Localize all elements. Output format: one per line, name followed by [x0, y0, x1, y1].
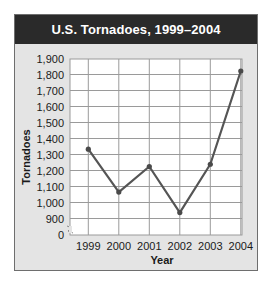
data-point [116, 190, 121, 195]
y-tick-label: 1,200 [36, 165, 64, 177]
axis-break-gap [69, 226, 72, 233]
y-tick-label: 1,000 [36, 197, 64, 209]
x-tick-label: 2001 [137, 240, 161, 252]
y-tick-label: 1,900 [36, 53, 64, 65]
x-axis-title: Year [150, 254, 174, 266]
x-tick-label: 2004 [229, 240, 253, 252]
y-tick-label: 1,500 [36, 117, 64, 129]
line-chart: 09001,0001,1001,2001,3001,4001,5001,6001… [15, 15, 257, 270]
data-point [86, 147, 91, 152]
y-axis-title: Tornadoes [20, 129, 32, 184]
y-tick-label: 1,700 [36, 85, 64, 97]
x-tick-label: 2000 [107, 240, 131, 252]
y-tick-label: 900 [46, 213, 64, 225]
y-tick-label: 1,600 [36, 101, 64, 113]
data-point [177, 210, 182, 215]
x-tick-label: 2002 [168, 240, 192, 252]
y-tick-label: 1,300 [36, 149, 64, 161]
data-point [238, 68, 243, 73]
data-point [147, 164, 152, 169]
y-tick-label: 1,400 [36, 133, 64, 145]
x-tick-label: 1999 [76, 240, 100, 252]
x-tick-label: 2003 [198, 240, 222, 252]
data-point [208, 162, 213, 167]
chart-panel: U.S. Tornadoes, 1999–2004 09001,0001,100… [14, 14, 258, 271]
y-tick-label: 1,800 [36, 69, 64, 81]
y-tick-label: 1,100 [36, 181, 64, 193]
y-tick-label: 0 [58, 229, 64, 241]
